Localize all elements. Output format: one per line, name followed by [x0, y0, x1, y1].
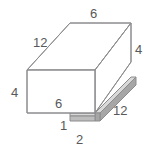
prism-drawing — [0, 0, 149, 151]
slab-front-cap — [95, 113, 100, 121]
label-front-width: 6 — [55, 97, 62, 110]
label-right-height: 4 — [135, 43, 142, 56]
label-slab-width: 2 — [76, 133, 83, 146]
label-slab-thickness: 1 — [60, 119, 67, 132]
label-left-height: 4 — [11, 86, 18, 99]
label-top-edge: 6 — [90, 7, 97, 20]
label-left-depth: 12 — [33, 36, 47, 49]
diagram-canvas: 6 12 4 4 6 1 2 12 — [0, 0, 149, 151]
label-slab-length: 12 — [113, 104, 127, 117]
front-tab-front-face — [70, 116, 95, 121]
